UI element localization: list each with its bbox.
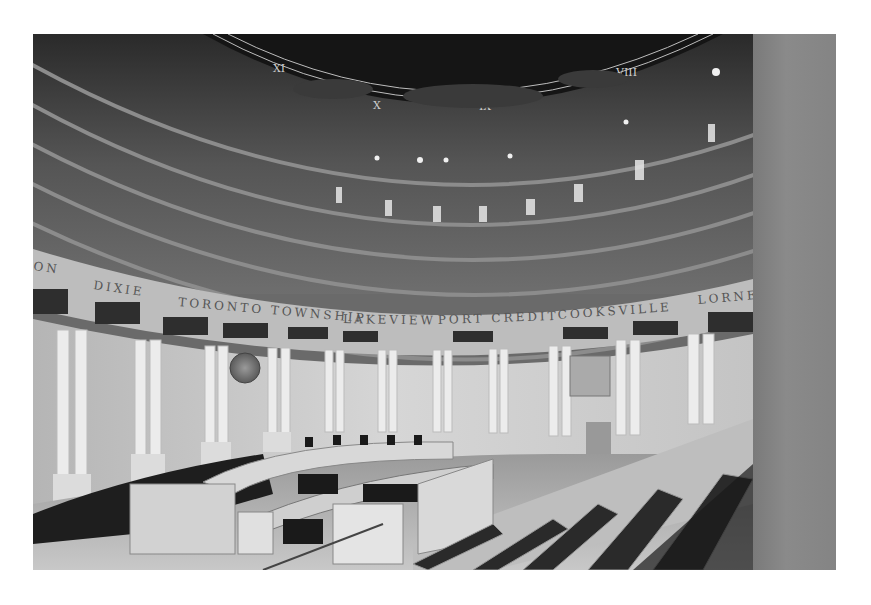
svg-text:LAKEVIEW: LAKEVIEW [343, 312, 436, 328]
speaker-podium [130, 484, 235, 554]
upper-doorway [570, 356, 610, 396]
lectern-block [333, 504, 403, 564]
dome-numeral: XI [273, 62, 285, 75]
chamber-scene: XI X IX VIII [33, 34, 836, 570]
dome-numeral: X [373, 99, 381, 112]
chamber-photograph: XI X IX VIII [33, 34, 836, 570]
foreground-pillar [753, 34, 836, 570]
crest-medallion [230, 353, 260, 383]
clerk-desk [238, 512, 273, 554]
